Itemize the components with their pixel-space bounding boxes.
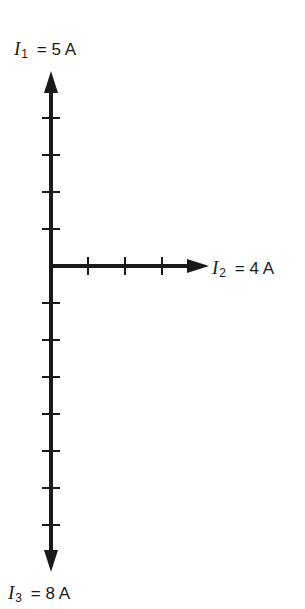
label-i3-subscript: 3 [15, 591, 22, 605]
arrowhead-up-icon [44, 71, 58, 93]
label-i2-subscript: 2 [219, 266, 226, 280]
label-i1: I1 = 5 A [14, 38, 76, 60]
label-i3-value: = 8 A [31, 584, 70, 603]
label-i2-symbol: I [212, 257, 218, 278]
arrowhead-right-icon [187, 259, 209, 273]
label-i1-value: = 5 A [37, 40, 76, 59]
label-i1-subscript: 1 [21, 47, 28, 61]
label-i2-value: = 4 A [235, 259, 274, 278]
label-i2: I2 = 4 A [212, 257, 274, 279]
label-i1-symbol: I [14, 38, 20, 59]
arrowhead-down-icon [44, 550, 58, 572]
phasor-diagram [0, 0, 305, 609]
label-i3-symbol: I [8, 582, 14, 603]
label-i3: I3 = 8 A [8, 582, 70, 604]
